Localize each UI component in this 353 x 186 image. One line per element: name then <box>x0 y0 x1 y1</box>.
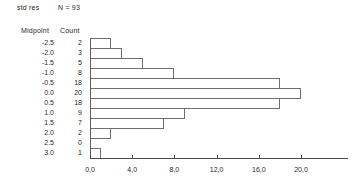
count-value: 18 <box>60 99 82 107</box>
count-value: 7 <box>60 119 82 127</box>
count-value: 5 <box>60 59 82 67</box>
axis-tick <box>301 155 302 159</box>
midpoint-value: -1.5 <box>22 59 54 67</box>
axis-tick <box>259 155 260 159</box>
count-value: 8 <box>60 69 82 77</box>
count-value: 20 <box>60 89 82 97</box>
midpoint-value: -0.5 <box>22 79 54 87</box>
midpoint-column-header: Midpoint <box>21 27 49 35</box>
midpoint-value: 2.5 <box>22 139 54 147</box>
axis-tick <box>132 155 133 159</box>
count-value: 9 <box>60 109 82 117</box>
axis-tick-label: 8,0 <box>159 166 189 174</box>
axis-tick-label: 16,0 <box>244 166 274 174</box>
axis-tick-label: 4,0 <box>117 166 147 174</box>
midpoint-value: -2.0 <box>22 49 54 57</box>
histogram-plot: std res N = 93 Midpoint Count -2.52-2.03… <box>0 0 353 186</box>
midpoint-value: 3.0 <box>22 149 54 157</box>
midpoint-value: 0.0 <box>22 89 54 97</box>
midpoint-value: 1.5 <box>22 119 54 127</box>
axis-tick <box>174 155 175 159</box>
count-value: 2 <box>60 39 82 47</box>
count-value: 18 <box>60 79 82 87</box>
axis-tick <box>90 155 91 159</box>
midpoint-value: -1.0 <box>22 69 54 77</box>
midpoint-value: 2.0 <box>22 129 54 137</box>
midpoint-value: 1.0 <box>22 109 54 117</box>
count-value: 0 <box>60 139 82 147</box>
midpoint-value: -2.5 <box>22 39 54 47</box>
midpoint-value: 0.5 <box>22 99 54 107</box>
variable-name-label: std res <box>17 4 39 12</box>
axis-tick-label: 20,0 <box>286 166 316 174</box>
vertical-axis-line <box>90 38 91 158</box>
histogram-bar <box>90 128 111 139</box>
axis-tick <box>217 155 218 159</box>
axis-tick-label: 0,0 <box>75 166 105 174</box>
axis-tick-label: 12,0 <box>202 166 232 174</box>
sample-size-label: N = 93 <box>58 4 80 12</box>
count-column-header: Count <box>60 27 80 35</box>
count-value: 2 <box>60 129 82 137</box>
count-value: 1 <box>60 149 82 157</box>
count-value: 3 <box>60 49 82 57</box>
horizontal-axis-line <box>90 158 348 159</box>
